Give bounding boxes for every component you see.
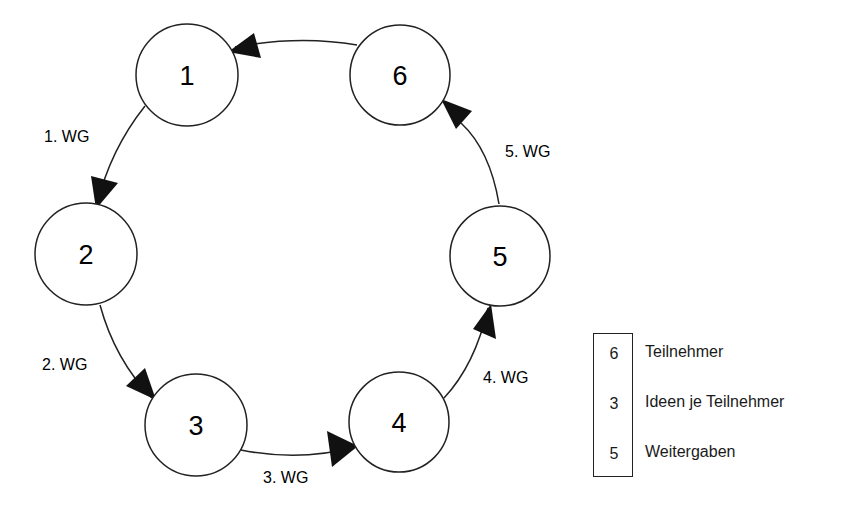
edge-label: 1. WG (44, 128, 89, 145)
node-label: 3 (188, 411, 203, 441)
edge-label: 5. WG (505, 143, 550, 160)
legend-box: 6 3 5 (593, 333, 633, 477)
legend-value: 5 (594, 445, 634, 463)
rotation-diagram: 1 2 3 4 5 6 1. WG 2. WG 3. WG 4. WG 5. W… (0, 0, 859, 507)
arrowhead-icon (441, 99, 472, 129)
edge-label: 4. WG (483, 369, 528, 386)
node-label: 5 (492, 242, 507, 272)
arrowhead-icon (473, 304, 496, 339)
edge-5-6 (461, 123, 499, 204)
legend-value: 6 (594, 345, 634, 363)
legend-label: Ideen je Teilnehmer (645, 393, 784, 411)
legend-label: Teilnehmer (645, 343, 723, 361)
legend-value: 3 (594, 395, 634, 413)
node-label: 6 (392, 61, 407, 91)
node-label: 4 (391, 408, 406, 438)
node-label: 2 (78, 240, 93, 270)
node-label: 1 (179, 61, 194, 91)
legend-label: Weitergaben (645, 443, 735, 461)
edge-label: 3. WG (263, 469, 308, 486)
edge-label: 2. WG (42, 356, 87, 373)
